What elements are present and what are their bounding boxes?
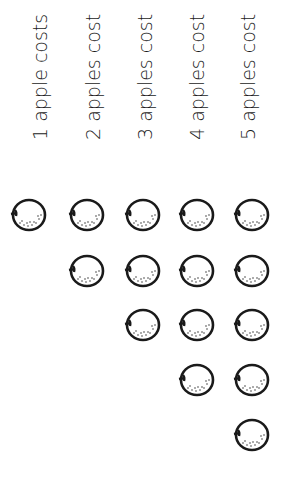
apple-icon: [231, 361, 271, 399]
apple-icon: [66, 252, 106, 290]
apple-icon: [231, 306, 271, 344]
apple-icon: [231, 416, 271, 454]
apple-icon: [8, 196, 48, 234]
apple-icon: [176, 252, 216, 290]
apple-icon: [122, 252, 162, 290]
label-1-apple: 1 apple costs: [29, 14, 51, 140]
apple-icon: [231, 252, 271, 290]
apple-icon: [176, 361, 216, 399]
label-4-apples: 4 apples cost: [186, 14, 208, 140]
label-3-apples: 3 apples cost: [134, 14, 156, 140]
apple-icon: [66, 196, 106, 234]
apple-icon: [122, 306, 162, 344]
apple-icon: [122, 196, 162, 234]
apple-icon: [176, 306, 216, 344]
apple-icon: [231, 196, 271, 234]
label-5-apples: 5 apples cost: [237, 14, 259, 140]
apple-icon: [176, 196, 216, 234]
label-2-apples: 2 apples cost: [82, 14, 104, 140]
